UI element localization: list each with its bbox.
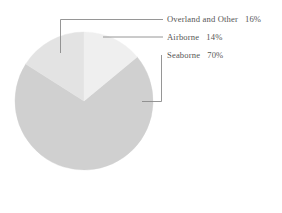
pie-chart-screen: Overland and Other16% Airborne14% Seabor… (0, 0, 282, 213)
pie-label-seaborne-name: Seaborne (167, 50, 200, 60)
pie-label-seaborne: Seaborne70% (167, 50, 223, 60)
pie-label-seaborne-percent: 70% (207, 50, 223, 60)
pie-label-overland: Overland and Other16% (167, 14, 261, 24)
pie-chart-graphic (0, 0, 282, 213)
pie-label-airborne: Airborne14% (167, 32, 222, 42)
pie-label-airborne-name: Airborne (167, 32, 199, 42)
pie-label-overland-percent: 16% (245, 14, 261, 24)
pie-label-overland-name: Overland and Other (167, 14, 238, 24)
pie-label-airborne-percent: 14% (206, 32, 222, 42)
clipped-footer-caption (6, 209, 138, 213)
